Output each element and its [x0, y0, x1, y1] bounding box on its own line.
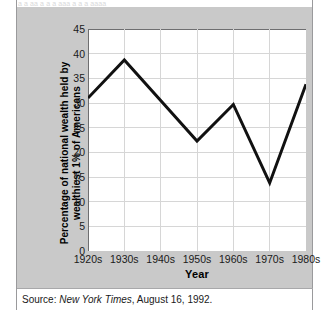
- y-axis-tick-label: 5: [59, 221, 85, 231]
- source-separator: [17, 288, 313, 289]
- y-axis-tick-label: 30: [59, 98, 85, 108]
- source-prefix: Source:: [22, 294, 56, 305]
- y-axis-tick-labels: 454035302520151050: [55, 29, 85, 251]
- chart-figure: a a aa a a a aaa a a a aaaa Percentage o…: [0, 0, 329, 310]
- clipped-header-text: a a aa a a a aaa a a a aaaa: [18, 0, 308, 6]
- source-note: Source: New York Times, August 16, 1992.: [22, 294, 212, 306]
- y-axis-tick-label: 40: [59, 49, 85, 59]
- plot-area: [88, 29, 306, 251]
- source-rest: , August 16, 1992.: [132, 294, 213, 305]
- y-axis-tick-label: 35: [59, 73, 85, 83]
- data-line-series: [88, 29, 306, 251]
- y-axis-tick-label: 45: [59, 24, 85, 34]
- y-axis-tick-label: 15: [59, 172, 85, 182]
- x-axis-tick-labels: 1920s1930s1940s1950s1960s1970s1980s: [88, 253, 306, 267]
- source-publication: New York Times: [59, 294, 132, 305]
- y-axis-tick-label: 25: [59, 123, 85, 133]
- figure-panel: Percentage of national wealth held by we…: [17, 7, 312, 288]
- y-axis-tick-label: 10: [59, 197, 85, 207]
- x-axis-title: Year: [88, 268, 306, 280]
- y-axis-tick-label: 20: [59, 147, 85, 157]
- x-axis-tick-label: 1980s: [284, 253, 328, 265]
- series-polyline: [88, 60, 306, 183]
